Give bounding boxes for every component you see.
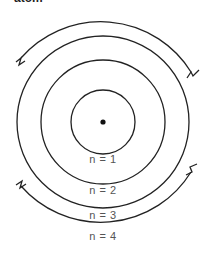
label-n4: n = 4	[73, 230, 133, 242]
break-mark-bottom-left	[16, 181, 26, 188]
break-mark-bottom-right	[186, 164, 197, 175]
break-mark-top-right	[187, 70, 199, 78]
label-n3: n = 3	[73, 209, 133, 221]
nucleus-dot	[100, 119, 105, 124]
break-mark-top-left	[16, 58, 25, 65]
label-n1: n = 1	[73, 153, 133, 165]
shell-n4-upper-arc	[21, 22, 191, 72]
label-n2: n = 2	[73, 184, 133, 196]
